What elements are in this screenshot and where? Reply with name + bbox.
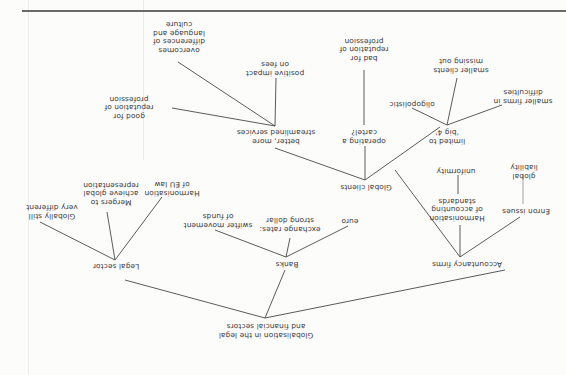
node-legal-sector: Legal sector [88,261,144,270]
node-harmonisation-accounting-standards: Harmonisation of accounting standards [426,196,488,222]
node-accountancy-firms: Accountancy firms [430,259,504,268]
node-global-liability: global liability [506,163,542,180]
node-smaller-firms-in-difficulties: smaller firms in difficulties [489,88,557,105]
node-harmonisation-eu-law: Harmonisation of EU law [142,180,202,197]
node-operating-a-cartel: operating a cartel? [337,128,391,145]
node-bad-for-reputation: bad for reputation of profession [332,36,396,62]
scanned-page: Globalisation in the legal and financial… [0,0,566,375]
node-oligopolistic: oligopolistic [388,99,436,108]
node-overcomes-differences: overcomes differences of language and cu… [148,20,210,54]
node-positive-impact-on-fees: positive impact on fees [240,60,310,77]
node-limited-to-big-4: limited to 'big 4' [425,128,469,145]
node-smaller-clients-missing-out: smaller clients missing out [430,57,492,74]
node-good-for-reputation: good for reputation of profession [100,94,158,120]
node-enron-issues: Enron issues [500,206,552,215]
node-better-streamlined-services: better, more streamlined services [232,128,320,145]
node-global-clients: Global clients [336,182,396,191]
node-swifter-movement-of-funds: swifter movement of funds [182,212,254,229]
node-mergers-global-representation: Mergers to achieve global representation [78,180,144,206]
node-banks: Banks [270,259,304,268]
node-globally-still-very-different: Globally still very different [22,203,82,220]
node-uniformity: uniformity [430,166,482,175]
node-euro: euro [337,216,363,225]
node-exchange-rates-strong-dollar: exchange rates: strong dollar [254,216,326,233]
root-node: Globalisation in the legal and financial… [214,322,318,339]
